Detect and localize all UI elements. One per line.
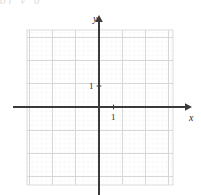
y-axis-label: y (93, 14, 97, 24)
coordinate-plane-svg (0, 0, 201, 195)
x-axis-arrowhead (185, 103, 192, 111)
coordinate-grid-figure: of y 6 (0, 0, 201, 195)
x-axis-tick-label-1: 1 (111, 113, 116, 122)
x-axis-label: x (189, 113, 193, 123)
y-axis-tick-label-1: 1 (89, 82, 94, 91)
